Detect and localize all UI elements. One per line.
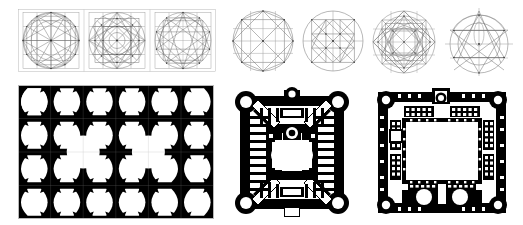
construction-panel-c [155, 12, 211, 69]
figure-plate [0, 0, 523, 225]
construction-panel-a [22, 12, 79, 69]
figure-strip-constructions [18, 9, 216, 72]
construction-panel-b [89, 13, 145, 69]
figure-circle-grid [302, 10, 364, 72]
figure-plan-courtyard [372, 86, 512, 219]
figure-plan-central [228, 86, 356, 219]
figure-tile-pattern [18, 85, 214, 219]
figure-circle-rosette [372, 10, 436, 74]
figure-circle-triangle [444, 6, 514, 78]
figure-circle-octagon [232, 10, 294, 72]
